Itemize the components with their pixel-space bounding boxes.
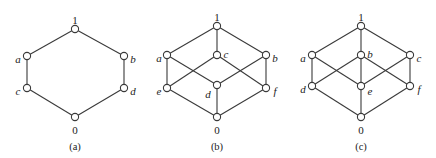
diagram-caption: (a) [69,141,81,153]
node-1 [357,22,364,29]
node-label-c: c [224,48,229,60]
node-label-c: c [16,85,21,97]
diagram-caption: (c) [355,141,367,153]
node-label-c: c [417,52,422,64]
node-c [213,51,220,58]
edges [312,26,410,117]
node-label-1: 1 [358,11,364,23]
edge-1-a [167,26,217,55]
node-b [262,51,269,58]
node-0 [71,113,78,120]
edge-d-0 [312,86,361,117]
node-0 [213,113,220,120]
node-f [262,84,269,91]
edges [167,26,266,117]
node-b [120,52,127,59]
node-e [163,84,170,91]
node-label-0: 0 [72,124,78,136]
node-label-0: 0 [358,124,364,136]
node-label-0: 0 [214,124,220,136]
node-label-d: d [205,88,211,100]
edge-1-a [312,26,361,55]
edge-f-0 [217,88,266,117]
node-label-b: b [130,53,136,65]
node-b [357,51,364,58]
node-label-1: 1 [214,11,220,23]
node-d [120,84,127,91]
diagram-caption: (b) [211,141,224,153]
node-c [23,84,30,91]
edges [27,29,124,117]
node-d [308,82,315,89]
node-1 [71,25,78,32]
node-label-a: a [300,52,306,64]
node-a [308,51,315,58]
edge-c-0 [27,88,75,117]
node-f [406,82,413,89]
node-label-1: 1 [72,14,78,26]
node-a [23,52,30,59]
node-c [406,51,413,58]
node-label-f: f [417,83,422,95]
node-label-a: a [156,52,162,64]
node-label-d: d [130,85,136,97]
lattice-diagram-b: 1acbedf0(b) [156,11,278,154]
node-label-b: b [272,52,278,64]
lattice-diagrams: 1abcd0(a) 1acbedf0(b) 1abcdef0(c) [0,0,436,158]
edge-d-0 [75,88,124,117]
node-1 [213,22,220,29]
node-label-e: e [157,85,162,97]
node-a [163,51,170,58]
node-label-d: d [300,83,306,95]
edge-1-b [75,29,124,56]
lattice-diagram-a: 1abcd0(a) [15,14,136,154]
lattice-diagram-c: 1abcdef0(c) [300,11,422,154]
node-label-f: f [273,85,278,97]
node-label-a: a [15,53,21,65]
node-label-b: b [367,48,373,60]
node-0 [357,113,364,120]
node-d [213,81,220,88]
node-label-e: e [368,85,373,97]
edge-1-a [27,29,75,56]
node-e [357,82,364,89]
